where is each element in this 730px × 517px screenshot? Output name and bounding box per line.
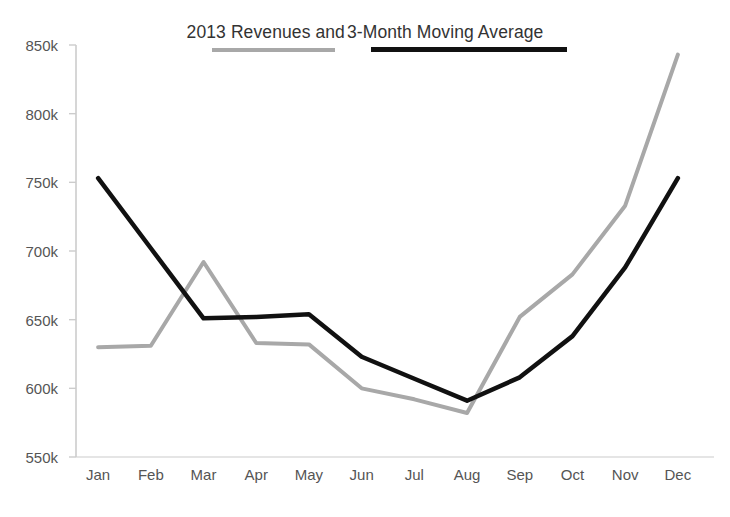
chart-container: 2013 Revenues and 3-Month Moving Average… [0, 0, 730, 517]
plot-area [0, 0, 730, 517]
series-layer [98, 55, 678, 413]
series-line-revenues [98, 55, 678, 413]
